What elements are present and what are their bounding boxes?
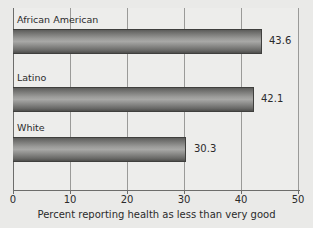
gridline-50 [298, 8, 299, 190]
bar-2 [13, 137, 186, 162]
bar-0 [13, 29, 262, 54]
x-tick-label-50: 50 [292, 194, 305, 205]
bar-value-label-1: 42.1 [261, 93, 283, 105]
x-tick-label-40: 40 [235, 194, 248, 205]
bar-category-label-1: Latino [17, 72, 46, 84]
x-tick-label-30: 30 [178, 194, 191, 205]
bar-category-label-0: African American [17, 14, 98, 26]
x-axis-line [13, 190, 300, 191]
x-axis-title: Percent reporting health as less than ve… [0, 209, 313, 220]
bar-category-label-2: White [17, 122, 45, 134]
bar-value-label-2: 30.3 [194, 143, 216, 155]
bar-chart: African American 43.6 Latino 42.1 White … [0, 0, 313, 228]
plot-area: African American 43.6 Latino 42.1 White … [13, 8, 299, 190]
x-tick-label-20: 20 [121, 194, 134, 205]
x-tick-label-10: 10 [64, 194, 77, 205]
x-tick-label-0: 0 [10, 194, 16, 205]
bar-value-label-0: 43.6 [269, 35, 291, 47]
bar-1 [13, 87, 254, 112]
